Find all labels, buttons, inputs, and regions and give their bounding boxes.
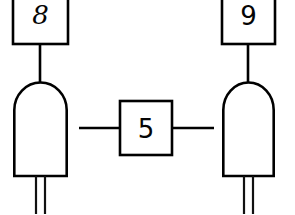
box-8-label: 8	[32, 0, 49, 30]
box-5-label: 5	[138, 114, 155, 144]
diagram-canvas: 8 5 9	[0, 0, 295, 214]
node-led-right[interactable]	[223, 83, 273, 215]
led-left-body[interactable]	[14, 83, 66, 176]
node-led-left[interactable]	[14, 83, 66, 214]
node-box-9[interactable]: 9	[222, 0, 275, 44]
node-box-5[interactable]: 5	[120, 101, 172, 155]
box-9-label: 9	[240, 1, 257, 31]
led-right-body[interactable]	[223, 83, 273, 177]
node-box-8[interactable]: 8	[13, 0, 68, 44]
schematic-svg: 8 5 9	[0, 0, 295, 214]
